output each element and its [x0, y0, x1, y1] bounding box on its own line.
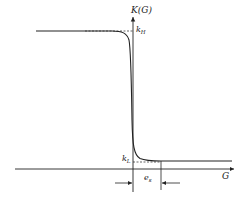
e-s-label: es	[144, 173, 152, 183]
y-axis-label: K(G)	[130, 5, 152, 15]
k-curve	[36, 31, 232, 161]
k-high-label: kH	[136, 25, 146, 35]
x-axis-label: G	[222, 171, 229, 181]
step-function-diagram: K(G) kH kL G es	[0, 0, 245, 198]
k-low-label: kL	[122, 154, 131, 164]
